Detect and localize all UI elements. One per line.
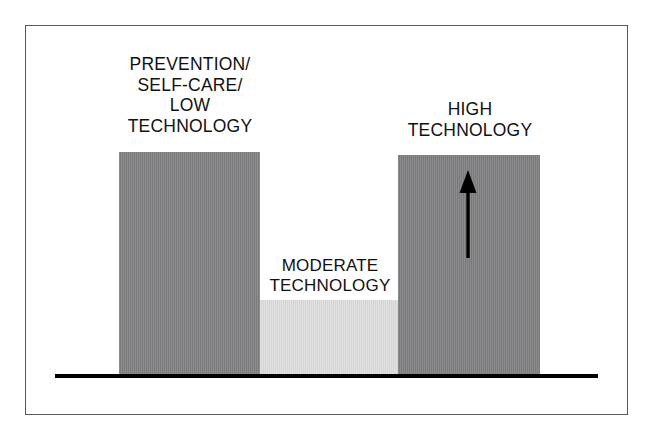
bar-label-prevention-self-care-low-technology: PREVENTION/ SELF-CARE/ LOW TECHNOLOGY [88,54,292,137]
bar-texture-moderate [260,300,398,376]
plot-area: PREVENTION/ SELF-CARE/ LOW TECHNOLOGY MO… [0,0,655,431]
baseline-axis [55,374,598,378]
bar-label-moderate-technology: MODERATE TECHNOLOGY [258,256,402,296]
bar-texture-low [119,152,260,376]
bar-label-high-technology: HIGH TECHNOLOGY [399,99,541,140]
upward-arrow-icon [451,168,485,260]
bar-prevention-self-care-low-technology [119,152,260,376]
figure-root: PREVENTION/ SELF-CARE/ LOW TECHNOLOGY MO… [0,0,655,431]
bar-moderate-technology [260,300,398,376]
